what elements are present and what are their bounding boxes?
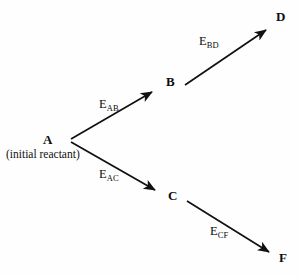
energy-symbol-cf: E (210, 224, 218, 238)
node-label-c: C (168, 189, 177, 202)
energy-label-ac: EAC (99, 168, 119, 181)
energy-label-ab: EAB (99, 98, 119, 111)
node-caption-a: (initial reactant) (6, 148, 80, 160)
energy-subscript-cf: CF (218, 230, 229, 240)
energy-symbol-ac: E (99, 167, 107, 181)
energy-label-cf: ECF (210, 225, 228, 238)
node-label-a: A (43, 133, 52, 146)
energy-subscript-bd: BD (207, 40, 219, 50)
energy-symbol-ab: E (99, 97, 107, 111)
energy-label-bd: EBD (199, 35, 219, 48)
energy-subscript-ac: AC (107, 173, 119, 183)
node-label-d: D (276, 10, 285, 23)
reaction-pathway-diagram: A (initial reactant) B C D F EAB EAC EBD… (0, 0, 301, 277)
arrow-b-to-d (185, 30, 266, 85)
node-label-f: F (279, 251, 287, 264)
energy-subscript-ab: AB (107, 103, 119, 113)
node-label-b: B (166, 75, 175, 88)
energy-symbol-bd: E (199, 34, 207, 48)
